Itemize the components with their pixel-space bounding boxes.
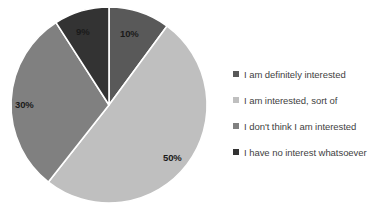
- pie-slice-group: [11, 7, 207, 203]
- slice-label-definitely-interested: 10%: [120, 28, 139, 39]
- legend-swatch-icon: [233, 149, 239, 155]
- chart-legend: I am definitely interested I am interest…: [233, 61, 389, 165]
- legend-item-label: I have no interest whatsoever: [244, 147, 367, 158]
- slice-label-interested-sort-of: 50%: [163, 152, 182, 163]
- legend-swatch-icon: [233, 97, 239, 103]
- pie-chart: 10% 50% 30% 9% I am definitely intereste…: [0, 0, 389, 211]
- legend-swatch-icon: [233, 123, 239, 129]
- legend-item-label: I am definitely interested: [244, 69, 346, 80]
- legend-item-label: I am interested, sort of: [244, 95, 337, 106]
- legend-item-label: I don't think I am interested: [244, 121, 356, 132]
- legend-item-no-interest[interactable]: I have no interest whatsoever: [233, 139, 389, 165]
- legend-item-definitely-interested[interactable]: I am definitely interested: [233, 61, 389, 87]
- legend-item-dont-think-interested[interactable]: I don't think I am interested: [233, 113, 389, 139]
- legend-swatch-icon: [233, 71, 239, 77]
- legend-item-interested-sort-of[interactable]: I am interested, sort of: [233, 87, 389, 113]
- slice-label-dont-think-interested: 30%: [15, 99, 34, 110]
- slice-label-no-interest: 9%: [76, 26, 90, 37]
